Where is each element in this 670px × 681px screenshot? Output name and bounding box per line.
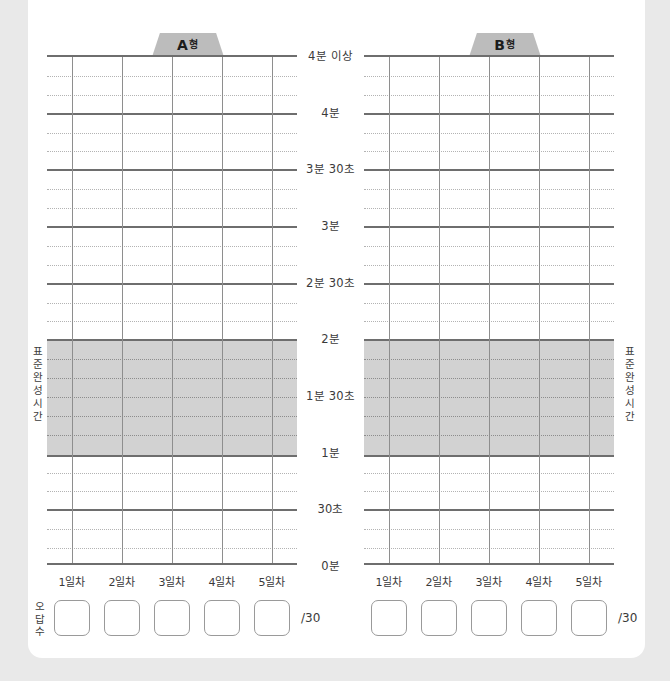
gridline-day-5일차 (589, 57, 590, 563)
answer-box-day-5[interactable] (571, 600, 607, 636)
answer-box-day-2[interactable] (104, 600, 140, 636)
gridline-day-5일차 (272, 57, 273, 563)
standard-time-char: 표 (623, 345, 637, 358)
gridline-day-3일차 (172, 57, 173, 563)
gridline-day-2일차 (122, 57, 123, 563)
gridline-day-4일차 (539, 57, 540, 563)
day-label-3: 3일차 (476, 573, 503, 589)
form-tab-b-suffix: 형 (506, 36, 516, 51)
standard-time-char: 준 (623, 358, 637, 371)
wrong-count-label: 오답수 (33, 600, 46, 638)
standard-time-label-left: 표준완성시간 (31, 345, 45, 423)
y-tick-label: 30초 (297, 500, 364, 516)
answer-box-day-4[interactable] (521, 600, 557, 636)
day-label-1: 1일차 (376, 573, 403, 589)
chart-a[interactable] (47, 55, 297, 565)
y-tick-label: 2분 (297, 330, 364, 346)
y-tick-label: 3분 30초 (297, 160, 364, 176)
gridline-day-2일차 (439, 57, 440, 563)
answer-total-suffix: /30 (301, 611, 320, 625)
day-label-5: 5일차 (259, 573, 286, 589)
day-label-5: 5일차 (576, 573, 603, 589)
standard-time-char: 간 (31, 410, 45, 423)
standard-time-char: 성 (31, 384, 45, 397)
wrong-count-char: 답 (33, 613, 46, 626)
answer-box-day-3[interactable] (471, 600, 507, 636)
chart-a-plot-area[interactable] (47, 55, 297, 565)
y-tick-label: 0분 (297, 557, 364, 573)
answer-box-day-1[interactable] (54, 600, 90, 636)
chart-b-plot-area[interactable] (364, 55, 614, 565)
gridline-day-1일차 (389, 57, 390, 563)
standard-time-char: 시 (31, 397, 45, 410)
standard-time-label-right: 표준완성시간 (623, 345, 637, 423)
y-tick-label: 1분 (297, 444, 364, 460)
day-label-1: 1일차 (59, 573, 86, 589)
gridline-day-1일차 (72, 57, 73, 563)
standard-time-char: 표 (31, 345, 45, 358)
form-tab-a-letter: A (177, 37, 188, 53)
chart-b-day-labels: 1일차2일차3일차4일차5일차 (364, 573, 614, 591)
chart-b[interactable] (364, 55, 614, 565)
chart-a-day-labels: 1일차2일차3일차4일차5일차 (47, 573, 297, 591)
y-tick-label: 1분 30초 (297, 387, 364, 403)
standard-time-char: 시 (623, 397, 637, 410)
answer-box-day-2[interactable] (421, 600, 457, 636)
wrong-count-char: 수 (33, 625, 46, 638)
day-label-3: 3일차 (159, 573, 186, 589)
y-tick-label: 2분 30초 (297, 274, 364, 290)
form-tab-a: A형 (152, 33, 224, 57)
y-tick-label: 3분 (297, 217, 364, 233)
answer-box-day-1[interactable] (371, 600, 407, 636)
day-label-4: 4일차 (526, 573, 553, 589)
form-tab-a-suffix: 형 (189, 36, 199, 51)
form-tab-b-letter: B (494, 37, 505, 53)
wrong-count-char: 오 (33, 600, 46, 613)
standard-time-char: 성 (623, 384, 637, 397)
form-tab-b: B형 (469, 33, 541, 57)
standard-time-char: 간 (623, 410, 637, 423)
gridline-day-3일차 (489, 57, 490, 563)
gridline-day-4일차 (222, 57, 223, 563)
standard-time-char: 완 (623, 371, 637, 384)
day-label-2: 2일차 (426, 573, 453, 589)
answer-box-day-5[interactable] (254, 600, 290, 636)
day-label-4: 4일차 (209, 573, 236, 589)
answer-box-day-3[interactable] (154, 600, 190, 636)
standard-time-char: 완 (31, 371, 45, 384)
y-tick-label: 4분 이상 (297, 47, 364, 63)
standard-time-char: 준 (31, 358, 45, 371)
answer-box-day-4[interactable] (204, 600, 240, 636)
answer-total-suffix: /30 (618, 611, 637, 625)
y-tick-label: 4분 (297, 104, 364, 120)
y-axis-tick-labels: 4분 이상4분3분 30초3분2분 30초2분1분 30초1분30초0분 (297, 55, 364, 565)
day-label-2: 2일차 (109, 573, 136, 589)
